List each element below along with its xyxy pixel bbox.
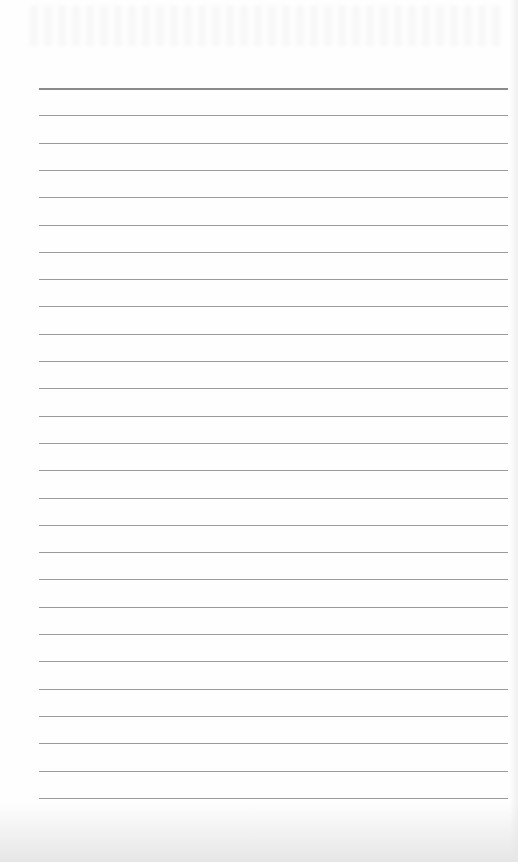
page-edge-shadow [510, 0, 518, 862]
ruled-line [39, 170, 508, 171]
ruled-line [39, 771, 508, 772]
ruled-line [39, 197, 508, 198]
ruled-line [39, 443, 508, 444]
ruled-line [39, 579, 508, 580]
lined-paper-page [0, 0, 518, 862]
ruled-line [39, 279, 508, 280]
ruled-line [39, 607, 508, 608]
ruled-line [39, 498, 508, 499]
ruled-line [39, 252, 508, 253]
ruled-line [39, 525, 508, 526]
ruled-line [39, 88, 508, 90]
ruled-line [39, 416, 508, 417]
ruled-line [39, 552, 508, 553]
ruled-line [39, 798, 508, 799]
ruled-line [39, 143, 508, 144]
ruled-line [39, 115, 508, 116]
ruled-line [39, 634, 508, 635]
ruled-line [39, 334, 508, 335]
ruled-line [39, 716, 508, 717]
bottom-shadow [0, 802, 518, 862]
ruled-line [39, 306, 508, 307]
ruled-line [39, 470, 508, 471]
ruled-line [39, 388, 508, 389]
ruled-line [39, 661, 508, 662]
ruled-line [39, 361, 508, 362]
ruled-line [39, 743, 508, 744]
bleed-through-text [30, 6, 500, 46]
ruled-line [39, 225, 508, 226]
ruled-line [39, 689, 508, 690]
